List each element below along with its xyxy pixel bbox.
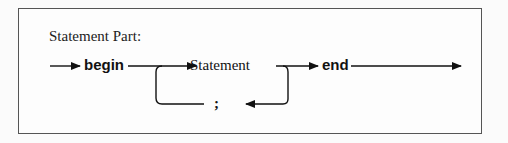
loop-back-arrow-icon xyxy=(246,66,288,104)
syntax-diagram-lines xyxy=(0,0,508,143)
keyword-end: end xyxy=(322,56,349,73)
keyword-begin: begin xyxy=(84,56,124,73)
nonterminal-statement: Statement xyxy=(190,57,250,74)
terminal-semicolon: ; xyxy=(214,95,219,112)
